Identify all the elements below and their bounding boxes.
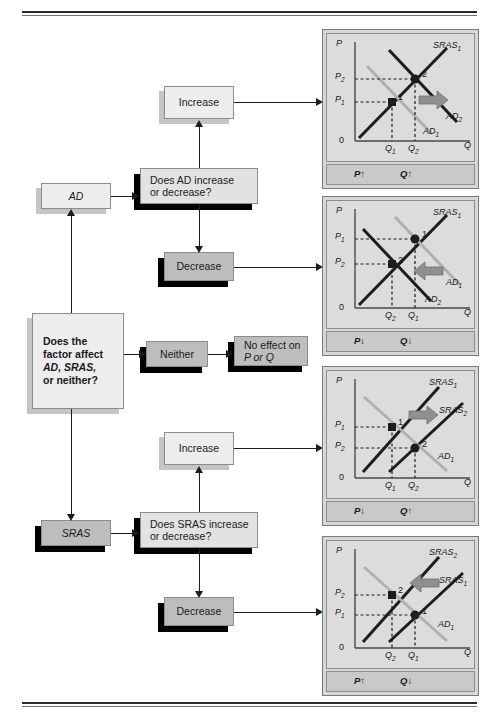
curve-label-ad1-4: AD1 bbox=[438, 619, 454, 631]
branch-box-sras[interactable]: SRAS bbox=[41, 520, 111, 546]
arrowhead-adq-to-decrease bbox=[195, 246, 203, 253]
footer-q-result-4: Q↓ bbox=[400, 675, 412, 686]
curve-label-sras2-4: SRAS2 bbox=[429, 547, 457, 559]
footer-q-arrow-4: ↓ bbox=[407, 675, 412, 686]
ad-increase-label: Increase bbox=[165, 96, 233, 109]
curve-label-sras1-1: SRAS1 bbox=[433, 40, 461, 52]
plot-area-sras-decrease: P Q 0 P2 P1 Q2 Q1 SRAS2 SRAS1 AD1 2 1 bbox=[326, 540, 475, 669]
curve-label-sras1-3: SRAS1 bbox=[429, 377, 457, 389]
connector-adq-to-increase bbox=[199, 126, 200, 168]
axis-label-q-1: Q bbox=[464, 140, 471, 150]
sras-decrease-box[interactable]: Decrease bbox=[164, 597, 234, 626]
graph-panel-sras-decrease: P Q 0 P2 P1 Q2 Q1 SRAS2 SRAS1 AD1 2 1 P↑… bbox=[322, 536, 479, 696]
xtick-q1-1: Q1 bbox=[385, 143, 396, 155]
main-question-line1: Does the bbox=[43, 335, 123, 348]
branch-box-ad[interactable]: AD bbox=[41, 183, 111, 209]
connector-adq-to-decrease bbox=[199, 204, 200, 246]
sras-increase-label: Increase bbox=[165, 442, 233, 455]
branch-box-neither[interactable]: Neither bbox=[146, 341, 208, 367]
origin-label-1: 0 bbox=[339, 135, 344, 145]
point-label-2-1: 2 bbox=[422, 69, 427, 79]
sras-increase-box[interactable]: Increase bbox=[164, 432, 234, 465]
connector-main-to-sras bbox=[71, 409, 72, 514]
bottom-divider-rule bbox=[22, 702, 477, 707]
footer-p-result-2: P↓ bbox=[354, 335, 365, 346]
plot-area-sras-increase: P Q 0 P1 P2 Q1 Q2 SRAS1 SRAS2 AD1 1 2 bbox=[326, 370, 475, 499]
connector-sras-to-question bbox=[111, 533, 132, 534]
footer-q-arrow-2: ↓ bbox=[407, 335, 412, 346]
point-label-2-4: 2 bbox=[398, 585, 403, 595]
top-divider-rule bbox=[22, 11, 477, 16]
main-question-line2: factor affect bbox=[43, 348, 123, 361]
sras-question-box[interactable]: Does SRAS increase or decrease? bbox=[140, 512, 258, 548]
axis-label-q-4: Q bbox=[464, 647, 471, 657]
plot-area-ad-increase: P Q 0 P2 P1 Q1 Q2 SRAS1 AD2 AD1 1 2 bbox=[326, 33, 475, 162]
point-label-1-1: 1 bbox=[398, 92, 403, 102]
branch-ad-label: AD bbox=[42, 190, 110, 203]
graph-footer-sras-increase: P↓ Q↑ bbox=[326, 501, 475, 522]
xtick-q2-1: Q2 bbox=[408, 143, 419, 155]
arrowhead-main-to-sras bbox=[67, 514, 75, 521]
point-label-1-2: 1 bbox=[422, 229, 427, 239]
arrowhead-srasq-to-decrease bbox=[195, 591, 203, 598]
footer-p-arrow-4: ↑ bbox=[360, 675, 365, 686]
footer-q-arrow-1: ↑ bbox=[407, 168, 412, 179]
no-effect-line2: P or Q bbox=[244, 351, 307, 364]
axis-label-p-3: P bbox=[336, 375, 342, 385]
connector-srasq-to-decrease bbox=[199, 548, 200, 591]
connector-srasq-to-increase bbox=[199, 472, 200, 512]
sras-question-line1: Does SRAS increase bbox=[150, 518, 257, 531]
xtick-q2-3: Q2 bbox=[408, 480, 419, 492]
footer-p-arrow-3: ↓ bbox=[360, 505, 365, 516]
graph-panel-ad-increase: P Q 0 P2 P1 Q1 Q2 SRAS1 AD2 AD1 1 2 P↑ Q… bbox=[322, 29, 479, 189]
curve-label-sras1-2: SRAS1 bbox=[433, 207, 461, 219]
arrowhead-main-to-ad bbox=[67, 209, 75, 216]
footer-q-result-1: Q↑ bbox=[400, 168, 412, 179]
ytick-p2-2: P2 bbox=[335, 256, 345, 268]
arrowhead-srasq-to-increase bbox=[195, 466, 203, 473]
arrowhead-neither-to-noeffect bbox=[226, 350, 233, 358]
footer-q-arrow-3: ↑ bbox=[407, 505, 412, 516]
main-question-box[interactable]: Does the factor affect AD, SRAS, or neit… bbox=[32, 313, 124, 409]
footer-p-result-1: P↑ bbox=[354, 168, 365, 179]
ytick-p2-3: P2 bbox=[335, 440, 345, 452]
axis-label-q-3: Q bbox=[464, 477, 471, 487]
graph-footer-ad-decrease: P↓ Q↓ bbox=[326, 331, 475, 352]
footer-q-result-2: Q↓ bbox=[400, 335, 412, 346]
ytick-p2-4: P2 bbox=[335, 587, 345, 599]
arrowhead-adq-to-increase bbox=[195, 120, 203, 127]
arrowhead-ad-to-question bbox=[132, 192, 139, 200]
origin-label-3: 0 bbox=[339, 472, 344, 482]
ad-increase-box[interactable]: Increase bbox=[164, 86, 234, 119]
main-question-line3: AD, SRAS, bbox=[43, 361, 123, 374]
graph-panel-ad-decrease: P Q 0 P1 P2 Q2 Q1 SRAS1 AD1 AD2 1 2 P↓ Q… bbox=[322, 196, 479, 356]
connector-srasinc-to-panel3 bbox=[234, 448, 316, 449]
curve-label-ad2-2: AD2 bbox=[425, 294, 441, 306]
ad-decrease-box[interactable]: Decrease bbox=[164, 252, 234, 281]
connector-main-to-neither bbox=[124, 354, 139, 355]
ad-decrease-label: Decrease bbox=[165, 260, 233, 273]
no-effect-box[interactable]: No effect on P or Q bbox=[234, 336, 308, 366]
ytick-p1-4: P1 bbox=[335, 607, 345, 619]
ytick-p1-2: P1 bbox=[335, 231, 345, 243]
plot-svg-sras-increase bbox=[327, 371, 478, 498]
axis-label-p-1: P bbox=[336, 38, 342, 48]
curve-label-ad1-3: AD1 bbox=[438, 451, 454, 463]
point-label-2-3: 2 bbox=[422, 439, 427, 449]
curve-label-sras1-4: SRAS1 bbox=[439, 575, 467, 587]
branch-neither-label: Neither bbox=[147, 348, 207, 361]
origin-label-2: 0 bbox=[339, 302, 344, 312]
connector-main-to-ad bbox=[71, 215, 72, 313]
ad-question-box[interactable]: Does AD increase or decrease? bbox=[140, 168, 258, 204]
footer-q-result-3: Q↑ bbox=[400, 505, 412, 516]
connector-adinc-to-panel1 bbox=[234, 102, 316, 103]
connector-addec-to-panel2 bbox=[234, 267, 316, 268]
plot-svg-sras-decrease bbox=[327, 541, 478, 668]
graph-footer-ad-increase: P↑ Q↑ bbox=[326, 164, 475, 185]
ad-question-line2: or decrease? bbox=[150, 186, 257, 199]
ytick-p1-3: P1 bbox=[335, 419, 345, 431]
plot-area-ad-decrease: P Q 0 P1 P2 Q2 Q1 SRAS1 AD1 AD2 1 2 bbox=[326, 200, 475, 329]
footer-p-result-3: P↓ bbox=[354, 505, 365, 516]
axis-label-q-2: Q bbox=[464, 307, 471, 317]
connector-srasdec-to-panel4 bbox=[234, 612, 316, 613]
